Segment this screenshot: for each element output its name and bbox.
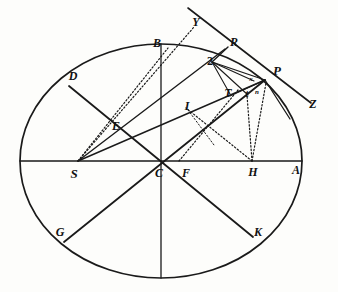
- label-Y: Y: [192, 16, 199, 28]
- segment-Q-to-P: [212, 62, 265, 80]
- label-x: x: [249, 76, 253, 83]
- label-Q: 2: [207, 55, 213, 67]
- label-E: E: [112, 120, 120, 132]
- label-n: n: [255, 89, 259, 96]
- label-H: H: [248, 166, 257, 178]
- chord-S-to-R: [78, 49, 225, 161]
- label-D: D: [69, 70, 78, 82]
- label-R: R: [230, 36, 238, 48]
- label-I: I: [185, 100, 190, 112]
- figure-canvas: YBRP2DZTIExtnSCFHAGK: [0, 0, 338, 292]
- segment-P-arc-tail: [265, 80, 290, 119]
- label-F: F: [182, 167, 190, 179]
- segment-Q-to-x: [212, 62, 254, 81]
- label-G: G: [56, 226, 65, 238]
- label-t: t: [246, 89, 249, 99]
- label-P: P: [273, 64, 281, 77]
- label-B: B: [153, 37, 161, 49]
- label-Z: Z: [309, 98, 316, 110]
- segment-Q-to-R: [212, 47, 228, 62]
- label-K: K: [254, 226, 262, 238]
- label-A: A: [292, 164, 300, 176]
- label-S: S: [70, 167, 77, 180]
- label-T: T: [224, 87, 231, 99]
- ellipse-diagram-svg: [0, 0, 338, 292]
- label-C: C: [155, 167, 163, 179]
- dotted-H-to-t: [247, 95, 252, 161]
